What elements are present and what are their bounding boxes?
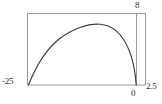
- x-axis-max-label: 2.5: [146, 82, 157, 91]
- x-axis-min-label: -25: [2, 77, 13, 86]
- x-axis-origin-label: 0: [131, 89, 135, 98]
- plot-frame-box: [28, 14, 146, 86]
- y-axis-max-label: 8: [135, 1, 139, 10]
- plot-canvas: [0, 0, 162, 104]
- plot-figure: 8 -25 0 2.5: [0, 0, 162, 104]
- data-curve: [29, 24, 137, 85]
